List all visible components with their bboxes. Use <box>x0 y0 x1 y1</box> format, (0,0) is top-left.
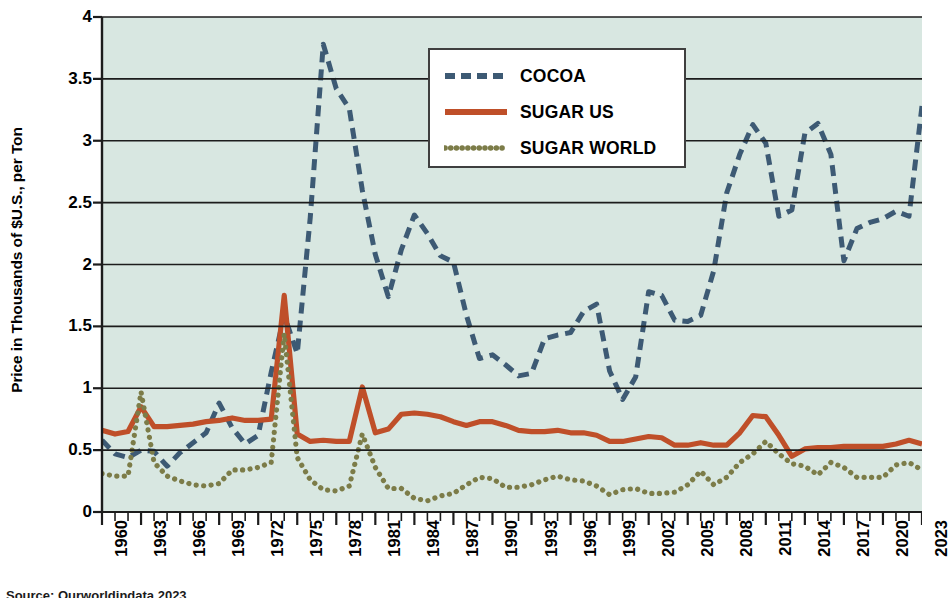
y-tick-label: 2 <box>36 255 92 275</box>
legend-label-sugar-world: SUGAR WORLD <box>520 138 656 159</box>
x-tick-label: 2017 <box>834 520 854 582</box>
legend-label-sugar-us: SUGAR US <box>520 102 614 123</box>
x-tick-label: 2020 <box>873 520 893 582</box>
x-tick-label: 1999 <box>600 520 620 582</box>
x-tick-label: 1981 <box>365 520 385 582</box>
x-tick-label: 1975 <box>287 520 307 582</box>
x-tick-label: 1972 <box>248 520 268 582</box>
legend-swatch-cocoa <box>444 69 508 83</box>
x-tick-label: 1960 <box>92 520 112 582</box>
y-tick-label: 0.5 <box>36 440 92 460</box>
x-tick-label: 1978 <box>326 520 346 582</box>
x-tick-label: 2023 <box>912 520 932 582</box>
x-tick-label: 1993 <box>522 520 542 582</box>
y-tick-label: 2.5 <box>36 193 92 213</box>
legend-item-cocoa[interactable]: COCOA <box>430 58 684 94</box>
x-tick-label: 2008 <box>717 520 737 582</box>
x-tick-label: 2002 <box>639 520 659 582</box>
series-line-sugar-us <box>102 295 922 456</box>
x-axis-tick-labels: 1960196319661969197219751978198119841987… <box>0 520 922 590</box>
legend: COCOA SUGAR US SUGAR WORLD <box>428 48 686 168</box>
x-tick-label: 2005 <box>678 520 698 582</box>
y-axis-title-text: Price in Thousands of $U.S., per Ton <box>8 127 26 393</box>
legend-item-sugar-world[interactable]: SUGAR WORLD <box>430 130 684 166</box>
legend-swatch-sugar-world <box>444 141 508 155</box>
y-tick-label: 3 <box>36 131 92 151</box>
legend-label-cocoa: COCOA <box>520 66 586 87</box>
legend-swatch-sugar-us <box>444 105 508 119</box>
x-tick-label: 1996 <box>561 520 581 582</box>
source-note: Source: Ourworldindata 2023 <box>6 588 187 598</box>
x-tick-label: 1969 <box>209 520 229 582</box>
y-tick-label: 1 <box>36 378 92 398</box>
y-tick-label: 4 <box>36 7 92 27</box>
legend-item-sugar-us[interactable]: SUGAR US <box>430 94 684 130</box>
x-tick-label: 1984 <box>404 520 424 582</box>
y-axis-title: Price in Thousands of $U.S., per Ton <box>0 0 34 520</box>
y-tick-label: 3.5 <box>36 69 92 89</box>
y-axis-tick-labels: 00.511.522.533.54 <box>32 0 92 598</box>
x-tick-label: 1966 <box>170 520 190 582</box>
x-tick-label: 1963 <box>131 520 151 582</box>
x-tick-label: 1990 <box>482 520 502 582</box>
y-tick-label: 1.5 <box>36 316 92 336</box>
x-tick-label: 2014 <box>795 520 815 582</box>
y-tick-label: 0 <box>36 502 92 522</box>
x-tick-label: 1987 <box>443 520 463 582</box>
x-tick-label: 2011 <box>756 520 776 582</box>
